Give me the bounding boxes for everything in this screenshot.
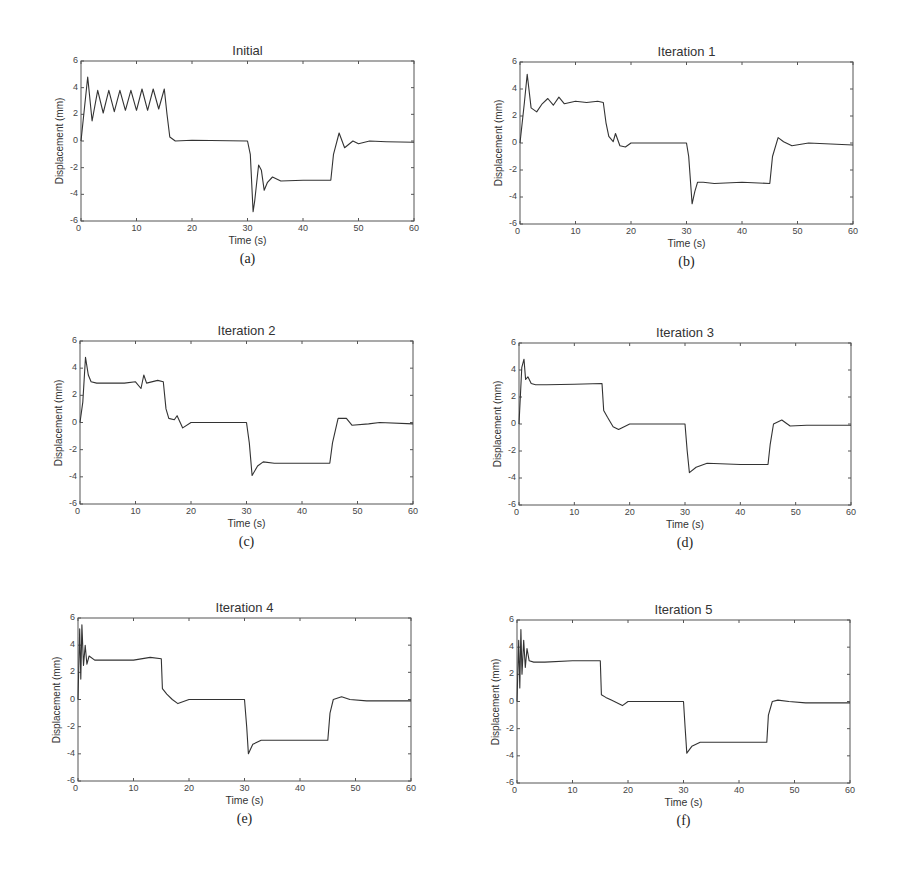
x-axis-label: Time (s) (225, 794, 263, 806)
y-tick-label: -6 (506, 777, 514, 787)
displacement-series (520, 74, 853, 204)
x-tick-label: 60 (406, 783, 416, 793)
x-axis-label: Time (s) (664, 796, 702, 808)
y-tick-label: -4 (508, 472, 516, 482)
x-axis-label: Time (s) (666, 518, 704, 530)
y-tick-label: 0 (72, 417, 77, 427)
x-tick-label: 50 (354, 223, 364, 233)
subplot-title: Initial (232, 43, 262, 58)
y-tick-label: 2 (72, 389, 77, 399)
x-axis-label: Time (s) (227, 517, 265, 529)
y-tick-label: 6 (70, 612, 75, 622)
y-tick-label: -6 (508, 499, 516, 509)
y-tick-label: 0 (509, 696, 514, 706)
y-tick-label: -4 (509, 191, 517, 201)
y-tick-label: -2 (67, 721, 75, 731)
x-tick-label: 20 (186, 506, 196, 516)
x-tick-label: 10 (129, 783, 139, 793)
x-tick-label: 40 (298, 223, 308, 233)
x-tick-label: 50 (793, 226, 803, 236)
y-tick-label: 2 (73, 108, 78, 118)
subfigure-label: (d) (677, 535, 693, 551)
x-tick-label: 50 (791, 507, 801, 517)
plot-area (520, 62, 853, 224)
y-tick-label: 2 (511, 391, 516, 401)
y-tick-label: 2 (512, 110, 517, 120)
y-tick-label: -6 (69, 498, 77, 508)
x-tick-label: 50 (353, 506, 363, 516)
x-tick-label: 10 (568, 785, 578, 795)
x-tick-label: 30 (242, 506, 252, 516)
y-tick-label: 2 (70, 666, 75, 676)
subfigure-label: (c) (239, 534, 255, 550)
x-tick-label: 30 (240, 783, 250, 793)
x-tick-label: 50 (351, 783, 361, 793)
y-axis-label: Displacement (mm) (490, 658, 501, 745)
x-tick-label: 60 (848, 226, 858, 236)
y-tick-label: -4 (69, 471, 77, 481)
y-axis-label: Displacement (mm) (492, 381, 503, 468)
x-axis-label: Time (s) (667, 237, 705, 249)
x-tick-label: 40 (297, 506, 307, 516)
y-tick-label: 0 (70, 694, 75, 704)
y-tick-label: -6 (509, 218, 517, 228)
subfigure-label: (e) (237, 811, 253, 827)
plot-area (517, 620, 850, 783)
y-tick-label: 6 (73, 55, 78, 65)
y-tick-label: -4 (67, 748, 75, 758)
subplot-title: Iteration 4 (216, 600, 274, 615)
y-tick-label: -2 (69, 444, 77, 454)
y-tick-label: 4 (73, 82, 78, 92)
x-tick-label: 10 (131, 506, 141, 516)
x-tick-label: 60 (846, 507, 856, 517)
subplot-title: Iteration 3 (656, 325, 714, 340)
y-tick-label: -6 (70, 215, 78, 225)
x-tick-label: 20 (623, 785, 633, 795)
y-tick-label: 0 (511, 418, 516, 428)
x-axis-label: Time (s) (228, 234, 266, 246)
subfigure-label: (b) (678, 254, 694, 270)
y-tick-label: 0 (512, 137, 517, 147)
x-tick-label: 20 (626, 226, 636, 236)
y-tick-label: 0 (73, 135, 78, 145)
plot-area (81, 61, 414, 221)
x-tick-label: 60 (845, 785, 855, 795)
y-tick-label: -4 (506, 750, 514, 760)
x-tick-label: 20 (625, 507, 635, 517)
y-tick-label: 2 (509, 668, 514, 678)
x-tick-label: 10 (132, 223, 142, 233)
y-tick-label: 4 (70, 639, 75, 649)
x-tick-label: 10 (571, 226, 581, 236)
y-axis-label: Displacement (mm) (51, 656, 62, 743)
y-tick-label: 4 (509, 641, 514, 651)
plot-area (80, 341, 413, 504)
y-tick-label: 4 (72, 362, 77, 372)
x-tick-label: 10 (569, 507, 579, 517)
y-axis-label: Displacement (mm) (53, 379, 64, 466)
x-tick-label: 40 (737, 226, 747, 236)
subplot-title: Iteration 5 (655, 602, 713, 617)
x-tick-label: 30 (679, 785, 689, 795)
y-tick-label: 6 (72, 335, 77, 345)
y-tick-label: 6 (511, 337, 516, 347)
y-tick-label: -2 (506, 723, 514, 733)
x-tick-label: 20 (184, 783, 194, 793)
displacement-series (80, 357, 413, 475)
displacement-series (519, 359, 851, 472)
x-tick-label: 30 (680, 507, 690, 517)
y-tick-label: 4 (511, 364, 516, 374)
x-tick-label: 50 (790, 785, 800, 795)
y-tick-label: 6 (509, 614, 514, 624)
x-tick-label: 30 (243, 223, 253, 233)
y-axis-label: Displacement (mm) (54, 98, 65, 185)
subfigure-label: (f) (677, 813, 691, 829)
y-tick-label: -2 (70, 162, 78, 172)
displacement-series (81, 77, 414, 212)
y-tick-label: -4 (70, 188, 78, 198)
subplot-title: Iteration 1 (658, 44, 716, 59)
subfigure-label: (a) (240, 251, 256, 267)
y-tick-label: -6 (67, 775, 75, 785)
subplot-title: Iteration 2 (218, 323, 276, 338)
x-tick-label: 60 (408, 506, 418, 516)
plot-area (78, 618, 411, 781)
